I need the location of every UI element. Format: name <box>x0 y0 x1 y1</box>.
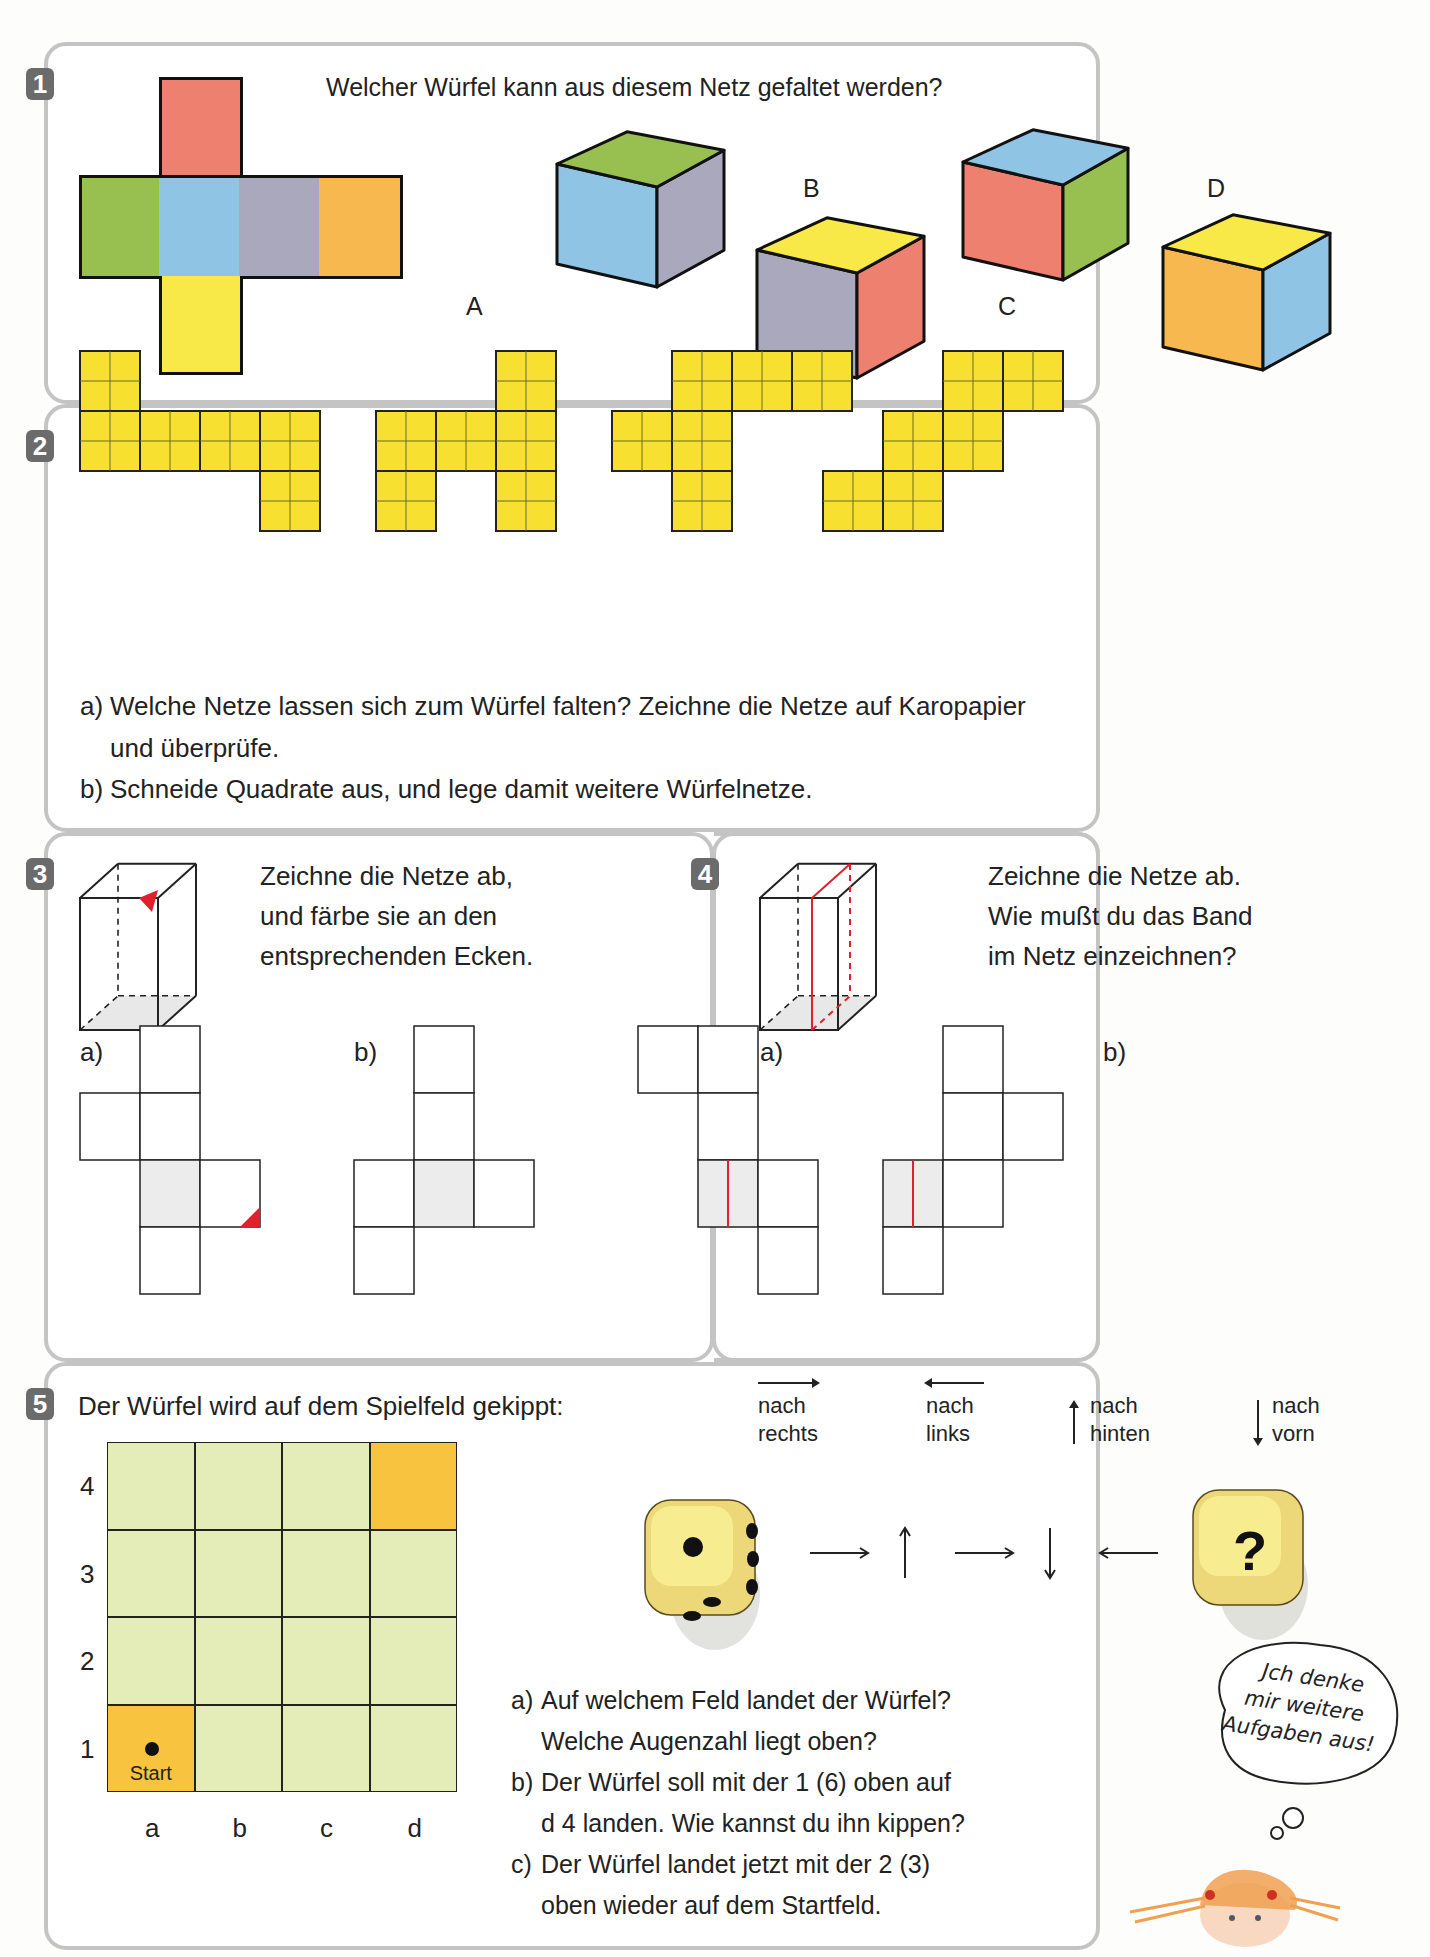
girl-illustration <box>0 0 1430 1957</box>
